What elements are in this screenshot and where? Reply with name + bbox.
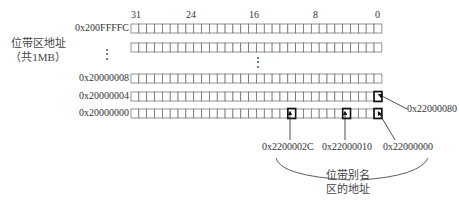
bit-cell [343, 109, 351, 118]
bit-cell [155, 74, 163, 83]
bit-cell [327, 92, 335, 101]
bit-cell [202, 109, 210, 118]
bit-cell [303, 74, 311, 83]
bit-cell [272, 92, 280, 101]
alias-label-line2: 区的地址 [323, 182, 373, 196]
bit-cell [155, 92, 163, 101]
alias-region-label: 位带别名 区的地址 [323, 168, 373, 196]
bit-label-24: 24 [186, 9, 196, 20]
bit-cell [131, 74, 139, 83]
arrow-22000080 [380, 95, 407, 109]
bit-cell [272, 74, 280, 83]
bit-cell [186, 24, 194, 33]
bit-cell [335, 43, 343, 52]
bit-cell [256, 109, 264, 118]
bit-cell [303, 92, 311, 101]
bit-cell [327, 24, 335, 33]
alias-address-22000080: 0x22000080 [407, 103, 457, 114]
bit-cell [162, 43, 170, 52]
bit-cell [162, 92, 170, 101]
bit-cell [256, 92, 264, 101]
bit-cell [209, 74, 217, 83]
bit-cell [256, 74, 264, 83]
bit-cell [343, 74, 351, 83]
bit-cell [351, 92, 359, 101]
bit-cell [272, 43, 280, 52]
bit-cell [311, 43, 319, 52]
bit-cell [170, 92, 178, 101]
bit-cell [264, 92, 272, 101]
bit-cell [217, 24, 225, 33]
bit-cell [319, 109, 327, 118]
bit-cell [225, 109, 233, 118]
bit-cell [335, 92, 343, 101]
bit-cell [374, 92, 382, 101]
bit-cell [249, 43, 257, 52]
bit-cell [178, 109, 186, 118]
bit-cell [264, 109, 272, 118]
bit-cell [194, 43, 202, 52]
bit-cell [139, 92, 147, 101]
bit-cell [217, 43, 225, 52]
bit-cell [319, 92, 327, 101]
alias-address-22000000: 0x22000000 [383, 141, 433, 152]
bit-cell [351, 43, 359, 52]
bit-cell [303, 43, 311, 52]
bit-label-8: 8 [313, 9, 318, 20]
bit-cell [131, 92, 139, 101]
bit-cell [162, 109, 170, 118]
bit-cell [288, 74, 296, 83]
bit-cell [147, 109, 155, 118]
bit-cell [296, 74, 304, 83]
bit-cell [241, 43, 249, 52]
region-label-line2: （共1MB） [8, 50, 68, 64]
bit-cell [194, 109, 202, 118]
bit-cell [170, 74, 178, 83]
bit-cell [217, 92, 225, 101]
bit-cell [209, 43, 217, 52]
bit-cell [209, 92, 217, 101]
bit-cell [170, 24, 178, 33]
bit-cell [178, 24, 186, 33]
arrow-22000000 [379, 113, 395, 140]
bit-cell [225, 24, 233, 33]
bit-cell [186, 92, 194, 101]
bit-cell [288, 109, 296, 118]
bit-cell [351, 24, 359, 33]
alias-label-line1: 位带别名 [323, 168, 373, 182]
bit-cell [311, 24, 319, 33]
bit-cell [170, 109, 178, 118]
bit-cell [303, 24, 311, 33]
ellipsis-center: ⋮ [252, 60, 264, 65]
bit-cell [351, 74, 359, 83]
bit-cell [217, 109, 225, 118]
bit-cell [249, 24, 257, 33]
bit-cell [296, 109, 304, 118]
alias-address-2200002c: 0x2200002C [262, 141, 314, 152]
bit-cell [147, 74, 155, 83]
bit-cell [178, 74, 186, 83]
bit-cell [233, 24, 241, 33]
bit-cell [288, 92, 296, 101]
bit-cell [241, 74, 249, 83]
bit-cell [280, 92, 288, 101]
bit-cell [131, 109, 139, 118]
bit-cell [178, 92, 186, 101]
bit-cell [194, 92, 202, 101]
alias-address-22000010: 0x22000010 [322, 141, 372, 152]
bit-cell [343, 24, 351, 33]
bit-cell [233, 92, 241, 101]
bit-cell [327, 109, 335, 118]
bit-cell [155, 24, 163, 33]
bit-cell [335, 24, 343, 33]
bit-cell [280, 109, 288, 118]
bit-cell [202, 74, 210, 83]
bit-cell [131, 24, 139, 33]
bit-cell [202, 92, 210, 101]
bit-cell [217, 74, 225, 83]
bit-cell [194, 24, 202, 33]
bit-cell [296, 24, 304, 33]
bit-cell [358, 92, 366, 101]
bit-cell [358, 74, 366, 83]
bit-cell [319, 43, 327, 52]
